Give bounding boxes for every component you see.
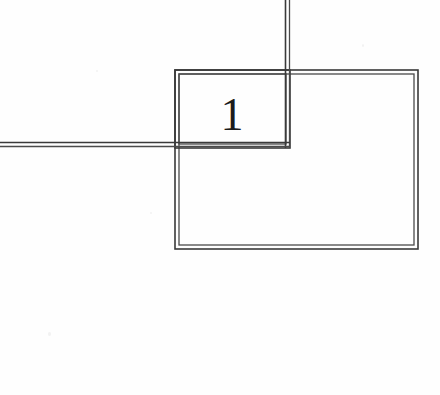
outer-rectangle (175, 70, 418, 249)
outer-rectangle-inner-stroke (179, 74, 414, 245)
technical-line-drawing: 1 (0, 0, 440, 395)
outer-rectangle-outer-stroke (175, 70, 418, 249)
figure-number-label: 1 (221, 89, 244, 140)
drawing-canvas: 1 (0, 0, 440, 395)
